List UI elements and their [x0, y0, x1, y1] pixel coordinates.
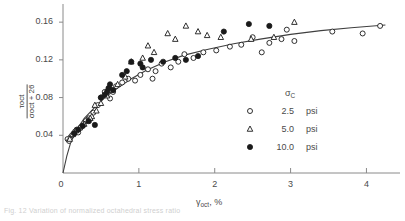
data-point-filled-circle — [80, 123, 85, 128]
x-origin-label: 0 — [54, 179, 68, 189]
data-point-filled-circle — [86, 119, 91, 124]
legend-value-2: 10.0 — [268, 142, 294, 152]
y-tick-label: 0.12 — [19, 54, 53, 64]
figure-caption: Fig. 12 Variation of normalized octahedr… — [4, 207, 180, 214]
data-point-filled-circle — [107, 82, 112, 87]
data-point-filled-circle — [246, 21, 251, 26]
y-axis-denominator: σoct + 26 — [28, 85, 36, 119]
data-point-open-circle — [378, 23, 383, 28]
data-point-filled-circle — [148, 57, 153, 62]
legend-title: σC — [285, 88, 295, 98]
data-point-open-triangle — [151, 49, 157, 54]
data-point-filled-circle — [76, 127, 81, 132]
data-point-open-circle — [168, 65, 173, 70]
data-point-open-circle — [360, 31, 365, 36]
data-point-filled-circle — [124, 69, 129, 74]
data-point-open-circle — [214, 48, 219, 53]
x-tick-label: 1 — [132, 179, 146, 189]
figure-container: 0.04 0.08 0.12 0.16 0 1 2 3 4 τoct σoct … — [0, 0, 405, 221]
y-axis-label: τoct σoct + 26 — [6, 72, 48, 128]
data-point-filled-circle — [92, 122, 97, 127]
data-point-filled-circle — [161, 59, 166, 64]
x-tick-label: 4 — [359, 179, 373, 189]
data-point-open-triangle — [247, 126, 253, 131]
y-axis-numerator: τoct — [18, 85, 26, 119]
data-point-open-circle — [153, 69, 158, 74]
data-point-open-circle — [292, 39, 297, 44]
data-point-open-circle — [227, 44, 232, 49]
data-point-open-triangle — [173, 36, 179, 41]
data-point-open-triangle — [165, 30, 171, 35]
x-axis-symbol: γ — [196, 197, 201, 207]
x-axis-units: , % — [209, 197, 222, 207]
data-point-open-circle — [330, 29, 335, 34]
data-point-filled-circle — [129, 59, 134, 64]
x-axis-subscript: oct — [201, 201, 210, 208]
data-point-open-circle — [201, 50, 206, 55]
legend-unit-2: psi — [306, 142, 318, 152]
data-point-open-triangle — [195, 29, 201, 34]
data-point-open-circle — [182, 52, 187, 57]
legend-title-symbol: σ — [285, 88, 291, 98]
legend-title-subscript: C — [291, 92, 296, 99]
legend-unit-1: psi — [306, 124, 318, 134]
data-point-open-triangle — [145, 43, 151, 48]
y-tick-label: 0.16 — [19, 16, 53, 26]
data-point-filled-circle — [195, 53, 200, 58]
data-point-filled-circle — [183, 57, 188, 62]
legend-value-1: 5.0 — [268, 124, 294, 134]
data-point-open-circle — [138, 72, 143, 77]
data-point-open-triangle — [292, 19, 298, 24]
legend-value-0: 2.5 — [268, 106, 294, 116]
x-axis-label: γoct, % — [196, 197, 222, 207]
data-point-filled-circle — [247, 144, 252, 149]
data-point-filled-circle — [267, 23, 272, 28]
data-point-open-circle — [248, 109, 253, 114]
data-point-filled-circle — [173, 55, 178, 60]
data-point-open-circle — [150, 76, 155, 81]
data-point-open-circle — [133, 78, 138, 83]
x-tick-label: 3 — [284, 179, 298, 189]
data-point-open-triangle — [218, 34, 224, 39]
data-point-open-triangle — [204, 32, 210, 37]
data-point-filled-circle — [221, 29, 226, 34]
data-point-filled-circle — [120, 72, 125, 77]
data-point-open-circle — [259, 50, 264, 55]
data-point-open-triangle — [183, 23, 189, 28]
data-point-filled-circle — [110, 87, 115, 92]
data-point-open-triangle — [140, 55, 146, 60]
data-point-open-circle — [120, 80, 125, 85]
data-point-open-circle — [145, 67, 150, 72]
data-point-open-circle — [284, 27, 289, 32]
legend-unit-0: psi — [306, 106, 318, 116]
data-point-filled-circle — [98, 95, 103, 100]
x-tick-label: 2 — [208, 179, 222, 189]
data-point-open-circle — [267, 40, 272, 45]
data-point-open-circle — [239, 42, 244, 47]
data-point-open-circle — [279, 37, 284, 42]
data-point-filled-circle — [140, 65, 145, 70]
